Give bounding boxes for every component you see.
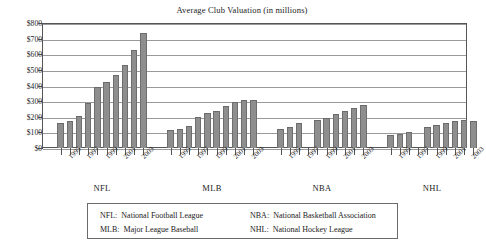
y-axis: $0$100$200$300$400$500$600$700$800 [0,23,42,148]
legend-entry: NHL:National Hockey League [250,225,410,234]
legend-full-name: National Football League [121,211,203,220]
bar [387,135,393,148]
legend-entry: NBA:National Basketball Association [250,211,410,220]
bar [67,121,73,148]
league-label-nhl: NHL [386,183,478,193]
y-tick-label: $200 [4,112,42,121]
bar [167,130,173,148]
bar [140,33,146,148]
bar [241,100,247,148]
bar [342,111,348,148]
legend-entry: NFL:National Football League [100,211,250,220]
league-label-nfl: NFL [56,183,148,193]
y-tick-label: $300 [4,97,42,106]
bar [470,121,476,148]
legend-grid: NFL:National Football LeagueNBA:National… [88,204,397,238]
bar [287,127,293,148]
league-label-nba: NBA [276,183,368,193]
bar [232,102,238,148]
x-axis-labels: 1995199719992001200319951997199920012003… [42,155,467,181]
bars-layer [42,23,467,148]
bar [351,108,357,148]
bar [76,116,82,148]
bar [397,134,403,148]
legend-box: NFL:National Football LeagueNBA:National… [87,203,398,239]
legend-entry: MLB:Major League Baseball [100,225,250,234]
bar [333,114,339,148]
bar [323,118,329,148]
y-tick-label: $400 [4,81,42,90]
bar [131,50,137,148]
legend-abbr: NFL: [100,211,117,220]
legend-abbr: NBA: [250,211,269,220]
bar [433,125,439,148]
y-tick-label: $700 [4,34,42,43]
bar [103,82,109,148]
bar [452,121,458,148]
bar [195,117,201,148]
bar [94,87,100,148]
league-label-mlb: MLB [166,183,258,193]
bar [85,103,91,148]
y-tick-label: $500 [4,65,42,74]
bar [360,105,366,148]
bar [122,65,128,148]
chart-title: Average Club Valuation (in millions) [0,5,484,15]
legend-full-name: National Basketball Association [273,211,376,220]
y-tick-label: $100 [4,128,42,137]
legend-abbr: NHL: [250,225,269,234]
y-tick-label: $600 [4,50,42,59]
bar [314,120,320,148]
x-tick-mark [281,148,282,155]
legend-abbr: MLB: [100,225,120,234]
bar [223,106,229,148]
bar [213,111,219,148]
bar [57,123,63,148]
x-tick-mark [61,148,62,155]
x-tick-mark [171,148,172,155]
bar [461,120,467,148]
bar [277,129,283,148]
legend-full-name: Major League Baseball [124,225,199,234]
legend-full-name: National Hockey League [273,225,353,234]
y-tick-label: $800 [4,19,42,28]
x-tick-mark [391,148,392,155]
bar [177,129,183,148]
bar [204,113,210,148]
bar [250,100,256,148]
bar [113,75,119,148]
league-group-labels: NFLMLBNBANHL [42,183,467,197]
y-tick-label: $0 [4,144,42,153]
